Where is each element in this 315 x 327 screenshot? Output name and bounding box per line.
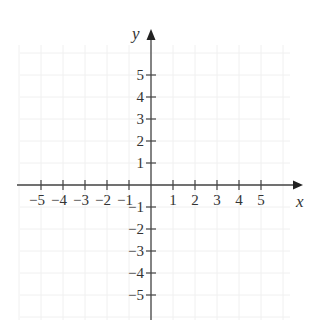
y-axis-arrow-icon <box>147 29 156 40</box>
x-tick-label: 4 <box>235 192 243 208</box>
y-tick-label: −2 <box>128 221 144 237</box>
x-axis-label: x <box>295 192 304 211</box>
x-tick-label: −5 <box>29 192 45 208</box>
y-tick-label: −1 <box>128 199 144 215</box>
y-tick-label: 5 <box>137 67 145 83</box>
coordinate-plane: x y −5−4−3−2−112345 54321−1−2−3−4−5 <box>0 0 315 327</box>
y-tick-label: 2 <box>137 133 145 149</box>
x-tick-label: 5 <box>257 192 265 208</box>
grid <box>19 45 290 320</box>
y-tick-label: −4 <box>128 265 144 281</box>
y-tick-label: 3 <box>137 111 145 127</box>
coordinate-plane-svg: x y −5−4−3−2−112345 54321−1−2−3−4−5 <box>0 0 315 327</box>
x-tick-label: 3 <box>213 192 221 208</box>
x-tick-label: −3 <box>73 192 89 208</box>
y-tick-label: −3 <box>128 243 144 259</box>
x-tick-label: −4 <box>51 192 67 208</box>
y-tick-label: 4 <box>137 89 145 105</box>
x-tick-label: −2 <box>95 192 111 208</box>
y-axis-label: y <box>130 24 140 43</box>
y-tick-label: −5 <box>128 287 144 303</box>
x-tick-label: 2 <box>191 192 199 208</box>
x-tick-label: 1 <box>169 192 177 208</box>
y-tick-label: 1 <box>137 155 145 171</box>
x-axis-arrow-icon <box>293 181 303 190</box>
x-ticks: −5−4−3−2−112345 <box>29 180 265 208</box>
